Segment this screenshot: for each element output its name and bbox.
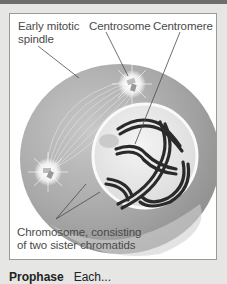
caption-text: Each... (74, 270, 111, 284)
nucleolus (99, 134, 119, 148)
label-early-mitotic-spindle: Early mitotic spindle (18, 20, 79, 46)
figure-caption: ProphaseEach... (9, 270, 111, 284)
cell-diagram (10, 14, 216, 259)
label-line: of two sister chromatids (17, 239, 141, 252)
label-line: Early mitotic (18, 20, 79, 33)
label-centrosome: Centrosome (89, 20, 151, 33)
caption-title: Prophase (9, 270, 64, 284)
label-line: spindle (18, 33, 79, 46)
label-line: Chromosome, consisting (17, 226, 141, 239)
label-centromere: Centromere (153, 20, 213, 33)
centrosome-upper (112, 64, 152, 104)
centrosome-lower (28, 152, 68, 192)
label-chromosome: Chromosome, consisting of two sister chr… (17, 226, 141, 252)
figure-panel: Early mitotic spindle Centrosome Centrom… (9, 13, 217, 260)
top-bar (0, 0, 227, 4)
